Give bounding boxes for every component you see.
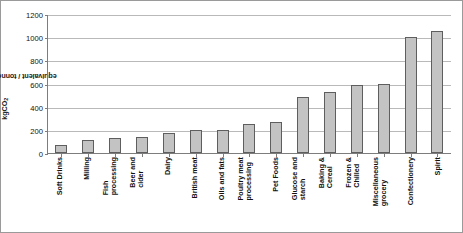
x-tick-label: Miscellaneousgrocery [372, 157, 388, 206]
y-tick-label: 1000 [26, 34, 43, 43]
x-tick-label-line: Milling [83, 157, 91, 180]
bar-slot [182, 15, 209, 153]
x-label-slot: Baking &Cereal [316, 157, 343, 231]
bar[interactable] [190, 130, 202, 153]
y-tick-label: 600 [30, 80, 43, 89]
x-label-slot: British meat [182, 157, 209, 231]
y-axis-tick-mark [45, 154, 48, 155]
x-tick-label-line: British meat [191, 157, 199, 199]
x-tick-label-line: Cereal [326, 157, 334, 188]
x-axis-tick-labels: Soft DrinksMillingFishprocessingBeer and… [47, 157, 451, 231]
x-tick-label-line: Dairy [164, 157, 172, 175]
x-tick-label-line: Confectionery [407, 157, 415, 205]
y-axis-tick-labels: 020040060080010001200 [15, 9, 45, 159]
x-tick-label: British meat [191, 157, 199, 199]
bar-slot [290, 15, 317, 153]
x-tick-label: Dairy [164, 157, 172, 175]
x-tick-label-line: Soft Drinks [56, 157, 64, 195]
bar-slot [424, 15, 451, 153]
x-tick-label: Frozen &Chilled [345, 157, 361, 188]
x-tick-label-line: Spirit [434, 157, 442, 175]
x-label-slot: Confectionery [397, 157, 424, 231]
bar[interactable] [55, 145, 67, 153]
x-label-slot: Soft Drinks [47, 157, 74, 231]
bar[interactable] [378, 84, 390, 154]
bar[interactable] [163, 133, 175, 153]
x-tick-label: Pet Foods [272, 157, 280, 192]
bar[interactable] [324, 92, 336, 153]
bar-slot [209, 15, 236, 153]
x-tick-label: Milling [83, 157, 91, 180]
x-tick-label: Baking &Cereal [318, 157, 334, 188]
bar[interactable] [431, 31, 443, 153]
y-tick-label: 800 [30, 57, 43, 66]
bar-slot [236, 15, 263, 153]
x-tick-label-line: grocery [380, 157, 388, 206]
y-tick-label: 200 [30, 126, 43, 135]
bar-slot [48, 15, 75, 153]
x-tick-label-line: cider [137, 157, 145, 188]
bar-slot [75, 15, 102, 153]
bar[interactable] [109, 138, 121, 153]
x-tick-label-line: Chilled [353, 157, 361, 188]
x-tick-label: Beer andcider [129, 157, 145, 188]
x-tick-label: Soft Drinks [56, 157, 64, 195]
bar[interactable] [136, 137, 148, 153]
x-label-slot: Spirit [424, 157, 451, 231]
x-label-slot: Poultry meatprocessing [236, 157, 263, 231]
bar[interactable] [351, 85, 363, 153]
bar-slot [397, 15, 424, 153]
x-tick-label-line: Pet Foods [272, 157, 280, 192]
bar[interactable] [270, 122, 282, 153]
bar[interactable] [82, 140, 94, 153]
bar-slot [370, 15, 397, 153]
x-label-slot: Miscellaneousgrocery [370, 157, 397, 231]
x-tick-label: Poultry meatprocessing [237, 157, 253, 201]
bar[interactable] [243, 124, 255, 153]
x-label-slot: Oils and fats [209, 157, 236, 231]
bar-slot [155, 15, 182, 153]
x-label-slot: Frozen &Chilled [343, 157, 370, 231]
x-label-slot: Fishprocessing [101, 157, 128, 231]
bar-slot [343, 15, 370, 153]
bar[interactable] [217, 130, 229, 153]
bar-slot [129, 15, 156, 153]
x-tick-label-line: starch [299, 157, 307, 200]
x-tick-label: Oils and fats [218, 157, 226, 200]
x-label-slot: Milling [74, 157, 101, 231]
y-tick-label: 0 [39, 150, 43, 159]
x-label-slot: Pet Foods [263, 157, 290, 231]
bar-slot [317, 15, 344, 153]
x-tick-label-line: Oils and fats [218, 157, 226, 200]
y-tick-label: 1200 [26, 11, 43, 20]
x-label-slot: Beer andcider [128, 157, 155, 231]
x-label-slot: Glucose andstarch [289, 157, 316, 231]
bar-series [48, 15, 451, 153]
x-tick-label: Confectionery [407, 157, 415, 205]
x-tick-label: Spirit [434, 157, 442, 175]
x-tick-label-line: processing [110, 157, 118, 195]
x-tick-label: Glucose andstarch [291, 157, 307, 200]
bar-slot [263, 15, 290, 153]
y-tick-label: 400 [30, 103, 43, 112]
bar-chart-figure: kgCO2 equivalent / tonne product 0200400… [0, 0, 463, 233]
plot-area [47, 15, 451, 154]
x-tick-label: Fishprocessing [102, 157, 118, 195]
bar-slot [102, 15, 129, 153]
bar[interactable] [297, 97, 309, 153]
bar[interactable] [405, 37, 417, 153]
y-axis-title-subscript: 2 [3, 98, 9, 101]
x-tick-label-line: processing [245, 157, 253, 201]
x-label-slot: Dairy [155, 157, 182, 231]
